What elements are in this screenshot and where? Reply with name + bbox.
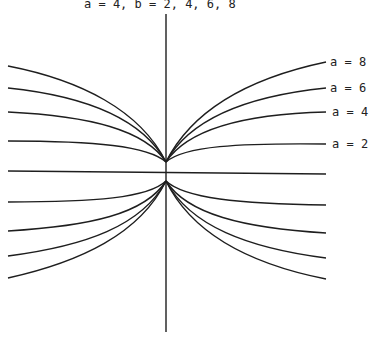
- label-a6: a = 6: [330, 81, 366, 95]
- label-a4: a = 4: [332, 105, 368, 119]
- curve-a2-lower-left: [8, 181, 166, 202]
- curve-a2-upper-right: [166, 144, 326, 162]
- curve-a8-upper-right: [166, 62, 326, 162]
- label-a2: a = 2: [332, 137, 368, 151]
- label-a8: a = 8: [330, 55, 366, 69]
- curve-family-diagram: a = 4, b = 2, 4, 6, 8 a = 8 a = 6 a = 4 …: [0, 0, 372, 343]
- diagram-title: a = 4, b = 2, 4, 6, 8: [84, 0, 236, 11]
- curve-a2-lower-right: [166, 181, 326, 205]
- curve-a4-upper-left: [8, 112, 166, 162]
- curve-a4-upper-right: [166, 112, 326, 162]
- curve-a2-upper-left: [8, 141, 166, 162]
- horizontal-axis: [8, 171, 326, 174]
- curve-a4-lower-right: [166, 181, 326, 233]
- curve-a8-lower-right: [166, 181, 326, 279]
- curve-a4-lower-left: [8, 181, 166, 231]
